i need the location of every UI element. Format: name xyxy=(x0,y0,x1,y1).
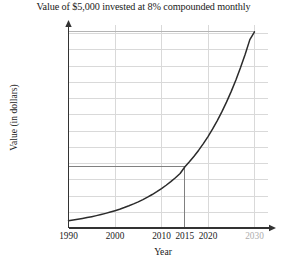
x-axis-title: Year xyxy=(68,246,258,257)
horizontal-gridlines xyxy=(69,34,269,213)
x-tick-label-1990: 1990 xyxy=(49,231,89,241)
axis-lines xyxy=(65,20,276,231)
y-axis-arrowhead xyxy=(65,20,71,27)
x-tick-label-2030: 2030 xyxy=(235,231,275,241)
x-tick-label-2020: 2020 xyxy=(188,231,228,241)
y-axis-title: Value (in dollars) xyxy=(8,63,19,173)
x-tick-label-2000: 2000 xyxy=(95,231,135,241)
investment-growth-chart: Value of $5,000 invested at 8% compounde… xyxy=(0,0,287,265)
